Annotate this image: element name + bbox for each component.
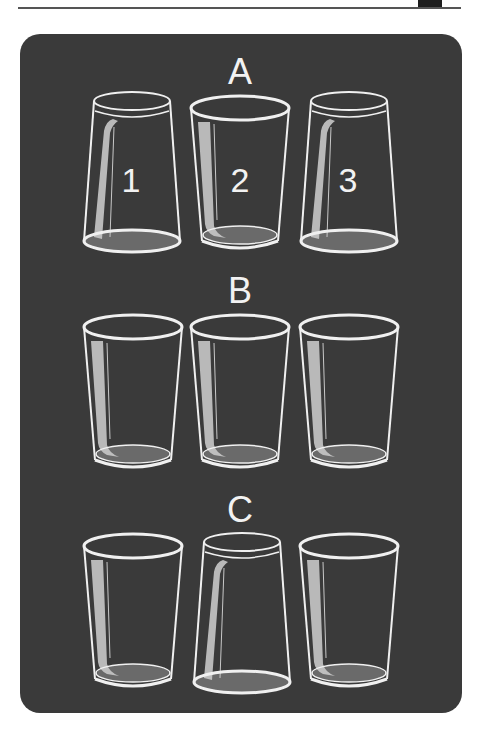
- glasses-illustration: [0, 0, 483, 737]
- glass-c2: [194, 533, 290, 693]
- glass-b1: [84, 315, 182, 467]
- row-label-b: B: [220, 273, 260, 309]
- glass-number-2: 2: [225, 163, 255, 197]
- glass-b3: [300, 315, 398, 467]
- glass-number-1: 1: [116, 163, 146, 197]
- glass-number-3: 3: [333, 163, 363, 197]
- glass-b2: [191, 315, 289, 467]
- glass-c1: [84, 534, 182, 686]
- row-label-c: C: [220, 492, 260, 528]
- row-label-a: A: [220, 54, 260, 90]
- glass-c3: [300, 534, 398, 686]
